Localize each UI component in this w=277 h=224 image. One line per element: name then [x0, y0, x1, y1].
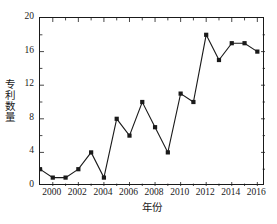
data-point-marker	[153, 125, 157, 129]
data-point-marker	[140, 100, 144, 104]
data-point-marker	[204, 33, 208, 37]
y-axis-tick-label: 0	[29, 180, 34, 190]
data-point-marker	[63, 176, 67, 180]
x-axis-tick-label: 2014	[221, 188, 240, 198]
data-point-marker	[217, 58, 221, 62]
plot-area	[39, 17, 264, 185]
data-point-marker	[191, 100, 195, 104]
x-axis-tick-label: 2002	[68, 188, 87, 198]
x-axis-tick-label: 2016	[247, 188, 266, 198]
data-point-marker	[230, 41, 234, 45]
y-axis-tick-label: 4	[29, 147, 34, 157]
data-point-marker	[102, 176, 106, 180]
data-point-marker	[179, 92, 183, 96]
y-axis-tick-label: 20	[25, 12, 35, 22]
data-point-markers	[40, 33, 259, 180]
data-point-marker	[242, 41, 246, 45]
y-axis-tick-label: 8	[29, 113, 34, 123]
x-axis-tick-label: 2010	[170, 188, 189, 198]
data-point-marker	[89, 150, 93, 154]
data-point-marker	[255, 50, 259, 54]
x-axis-tick-label: 2006	[119, 188, 138, 198]
y-axis-tick-label: 16	[25, 46, 35, 56]
data-series-line	[40, 35, 257, 178]
data-point-marker	[166, 150, 170, 154]
x-axis-tick-labels: 200020022004200620082010201220142016	[39, 188, 264, 202]
data-point-marker	[115, 117, 119, 121]
data-point-marker	[76, 167, 80, 171]
x-axis-tick-label: 2008	[145, 188, 164, 198]
y-axis-tick-label: 12	[25, 79, 35, 89]
x-axis-tick-label: 2012	[196, 188, 215, 198]
patent-count-line-chart: 专利数量 048121620 2000200220042006200820102…	[0, 0, 277, 224]
y-axis-tick-labels: 048121620	[0, 17, 34, 185]
x-axis-tick-label: 2000	[42, 188, 61, 198]
data-point-marker	[127, 134, 131, 138]
data-point-marker	[40, 167, 42, 171]
chart-canvas	[40, 18, 265, 186]
x-axis-tick-label: 2004	[93, 188, 112, 198]
x-axis-title: 年份	[39, 202, 264, 213]
data-point-marker	[51, 176, 55, 180]
